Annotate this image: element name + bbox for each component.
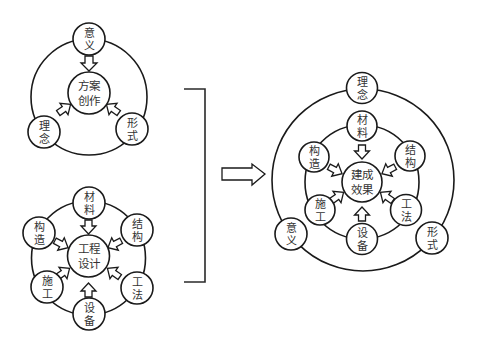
node-meaning: 意 义: [73, 23, 105, 55]
node-construction: 施 工: [305, 195, 335, 225]
svg-text:构: 构: [309, 144, 320, 158]
svg-text:材: 材: [357, 113, 368, 127]
node-materials: 材 料: [347, 111, 377, 141]
node-structure: 结 构: [395, 141, 425, 171]
arrow-down-icon: [81, 220, 96, 234]
diagram-canvas: 方案 创作 意 义 理 念 形 式 工程: [0, 0, 478, 348]
svg-text:施: 施: [315, 198, 326, 211]
svg-text:构: 构: [405, 156, 416, 170]
svg-text:式: 式: [427, 239, 438, 252]
svg-text:效果: 效果: [351, 183, 374, 197]
node-form: 形 式: [116, 113, 148, 145]
svg-text:义: 义: [286, 235, 297, 248]
svg-text:念: 念: [357, 88, 368, 102]
connector: [184, 89, 265, 282]
svg-text:设: 设: [84, 302, 95, 315]
center-node-result: 建成 效果: [342, 162, 382, 202]
svg-text:意: 意: [84, 26, 95, 40]
node-equipment: 设 备: [73, 298, 105, 330]
node-concept: 理 念: [347, 73, 378, 104]
node-equipment: 设 备: [347, 224, 378, 255]
svg-text:工: 工: [132, 276, 143, 289]
diagram-engineering: 工程 设计 材 料 构 造 结 构 施 工 工 法: [23, 187, 153, 330]
svg-text:意: 意: [286, 221, 297, 235]
node-method: 工 法: [121, 272, 153, 304]
node-structure: 结 构: [121, 214, 153, 246]
svg-text:形: 形: [127, 117, 138, 130]
node-method: 工 法: [391, 195, 422, 226]
center-label-line2: 创作: [78, 94, 101, 108]
svg-text:法: 法: [401, 210, 412, 224]
arrow-down-icon: [81, 56, 97, 71]
svg-text:施: 施: [42, 275, 53, 288]
node-construction-detail: 构 造: [299, 142, 329, 172]
svg-text:建成: 建成: [351, 168, 374, 182]
svg-text:备: 备: [84, 314, 95, 328]
svg-text:工程: 工程: [78, 242, 101, 256]
diagram-result: 建成 效果 理 念 意 义 形 式 材 料 构 造: [272, 73, 454, 272]
svg-text:料: 料: [357, 126, 368, 140]
arrow-down-icon: [355, 145, 370, 159]
svg-text:理: 理: [357, 76, 368, 89]
arrow-up-icon: [81, 283, 96, 297]
merge-bracket: [184, 89, 205, 282]
center-label-line1: 方案: [78, 79, 101, 93]
node-meaning: 意 义: [275, 218, 307, 250]
svg-text:备: 备: [357, 239, 368, 253]
svg-text:设: 设: [357, 227, 368, 240]
svg-text:结: 结: [405, 144, 416, 157]
svg-text:法: 法: [132, 288, 143, 302]
svg-text:式: 式: [127, 130, 138, 143]
svg-text:工: 工: [42, 288, 53, 301]
center-node-engineering: 工程 设计: [68, 235, 110, 277]
svg-text:料: 料: [84, 203, 95, 217]
svg-text:造: 造: [34, 233, 45, 247]
node-concept: 理 念: [28, 116, 60, 148]
svg-text:材: 材: [84, 190, 95, 204]
svg-text:工: 工: [315, 211, 326, 224]
node-construction: 施 工: [31, 271, 63, 303]
svg-text:设计: 设计: [78, 257, 101, 271]
svg-text:造: 造: [309, 157, 320, 171]
svg-text:义: 义: [84, 40, 95, 53]
right-hollow-arrow-icon: [222, 164, 265, 185]
node-form: 形 式: [416, 222, 448, 254]
node-construction-detail: 构 造: [23, 217, 55, 249]
svg-text:构: 构: [34, 220, 45, 234]
diagram-scheme: 方案 创作 意 义 理 念 形 式: [28, 23, 148, 155]
svg-text:工: 工: [401, 198, 412, 211]
svg-text:构: 构: [132, 230, 143, 244]
svg-text:念: 念: [39, 132, 50, 146]
svg-text:结: 结: [132, 218, 143, 231]
node-materials: 材 料: [73, 187, 105, 219]
arrow-up-icon: [355, 207, 370, 221]
center-node-scheme: 方案 创作: [68, 72, 110, 114]
svg-text:理: 理: [39, 120, 50, 133]
svg-text:形: 形: [427, 226, 438, 239]
